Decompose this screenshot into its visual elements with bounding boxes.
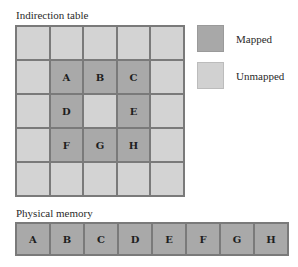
table-cell-unmapped — [16, 60, 50, 94]
table-cell-unmapped — [16, 94, 50, 128]
memory-cell: A — [16, 223, 50, 255]
memory-cell: G — [220, 223, 254, 255]
memory-cell: C — [84, 223, 118, 255]
table-cell-unmapped — [150, 128, 184, 162]
table-cell-mapped: H — [117, 128, 151, 162]
table-cell-unmapped — [16, 162, 50, 196]
table-cell-mapped: E — [117, 94, 151, 128]
physical-memory-row: ABCDEFGH — [15, 222, 289, 256]
table-cell-mapped: B — [83, 60, 117, 94]
table-cell-unmapped — [150, 26, 184, 60]
table-cell-mapped: C — [117, 60, 151, 94]
table-cell-unmapped — [16, 26, 50, 60]
table-cell-unmapped — [50, 26, 84, 60]
table-cell-mapped: F — [50, 128, 84, 162]
table-cell-unmapped — [83, 94, 117, 128]
mapped-swatch — [197, 25, 224, 52]
memory-cell: D — [118, 223, 152, 255]
table-cell-unmapped — [117, 26, 151, 60]
indirection-table-grid: ABCDEFGH — [15, 25, 185, 197]
table-cell-unmapped — [150, 94, 184, 128]
table-cell-unmapped — [83, 162, 117, 196]
table-cell-unmapped — [117, 162, 151, 196]
table-cell-mapped: G — [83, 128, 117, 162]
table-cell-mapped: A — [50, 60, 84, 94]
table-cell-unmapped — [150, 162, 184, 196]
table-cell-unmapped — [50, 162, 84, 196]
physical-memory-title: Physical memory — [16, 207, 93, 219]
memory-cell: F — [186, 223, 220, 255]
legend-mapped: Mapped — [197, 25, 272, 52]
unmapped-swatch — [197, 62, 224, 89]
table-cell-unmapped — [16, 128, 50, 162]
legend-mapped-label: Mapped — [236, 33, 272, 45]
table-cell-unmapped — [150, 60, 184, 94]
table-cell-unmapped — [83, 26, 117, 60]
memory-cell: H — [254, 223, 288, 255]
legend-unmapped-label: Unmapped — [236, 70, 284, 82]
memory-cell: E — [152, 223, 186, 255]
indirection-table-title: Indirection table — [16, 9, 88, 21]
table-cell-mapped: D — [50, 94, 84, 128]
memory-cell: B — [50, 223, 84, 255]
legend-unmapped: Unmapped — [197, 62, 284, 89]
